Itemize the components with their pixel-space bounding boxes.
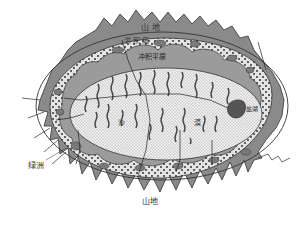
label-alluvial-fan: 洪 积 扇 bbox=[124, 38, 149, 45]
label-mountain-bottom: 山地 bbox=[142, 198, 158, 206]
salt-lake bbox=[227, 100, 245, 118]
label-desert-left: 沙 bbox=[118, 120, 125, 127]
label-alluvial-plain: 冲积平原 bbox=[138, 54, 166, 61]
label-mountain-top: 山 地 bbox=[141, 24, 160, 32]
label-desert-right: 漠 bbox=[194, 120, 201, 127]
label-oasis: 绿洲 bbox=[28, 162, 44, 170]
label-salt-lake: 盐湖 bbox=[246, 106, 258, 112]
